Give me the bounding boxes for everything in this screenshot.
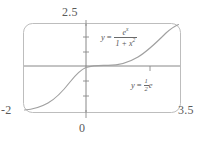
plot-canvas (0, 0, 203, 141)
curve-equation-annotation: y = ex 1 + x2 (101, 27, 137, 47)
curve-eq-fraction: ex 1 + x2 (114, 27, 138, 47)
curve-eq-den-exponent: 2 (133, 37, 136, 43)
x-max-label: 3.5 (178, 104, 194, 116)
function-graph-figure: 2.5 -2 3.5 0 y = ex 1 + x2 y = 1 2 e (0, 0, 203, 141)
curve-eq-operator: = (105, 33, 114, 42)
curve-eq-numerator: ex (120, 27, 130, 37)
curve-eq-denominator: 1 + x2 (114, 37, 138, 48)
hline-eq-symbol: e (149, 81, 153, 90)
curve-eq-num-exponent: x (126, 26, 128, 32)
x-min-label: -2 (1, 104, 12, 116)
hline-eq-operator: = (135, 81, 144, 90)
y-max-label: 2.5 (62, 6, 78, 18)
origin-label: 0 (79, 122, 85, 134)
hline-equation-annotation: y = 1 2 e (131, 78, 153, 92)
curve-eq-den-base: 1 + x (116, 38, 133, 47)
